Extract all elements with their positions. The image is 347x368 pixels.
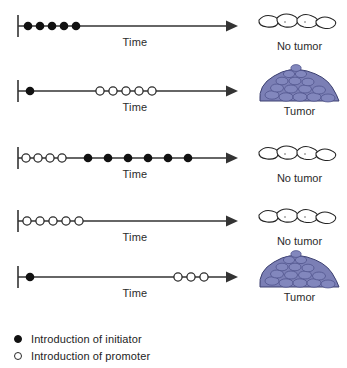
tumor-cell xyxy=(302,264,314,272)
timeline-row: Time xyxy=(0,73,347,139)
tumor-cell xyxy=(276,263,288,271)
timeline-axis-svg xyxy=(0,259,250,309)
normal-cell xyxy=(259,148,279,160)
timeline-axis: Time xyxy=(0,203,250,253)
initiator-marker xyxy=(124,154,133,163)
time-axis-label: Time xyxy=(80,231,190,243)
tumor-cell xyxy=(289,263,301,271)
timeline-axis-svg xyxy=(0,73,250,123)
normal-cell xyxy=(316,212,336,224)
promoter-marker xyxy=(122,87,130,95)
promoter-marker xyxy=(22,154,30,162)
promoter-marker xyxy=(23,217,31,225)
outcome-tumor: Tumor xyxy=(252,255,347,317)
timeline-axis: Time xyxy=(0,259,250,309)
normal-cell xyxy=(277,14,298,27)
normal-cell xyxy=(297,210,318,223)
promoter-marker xyxy=(187,273,195,281)
promoter-marker xyxy=(200,273,208,281)
legend-label: Introduction of initiator xyxy=(31,333,142,345)
promoter-marker xyxy=(96,87,104,95)
promoter-marker xyxy=(36,217,44,225)
tumor-cell xyxy=(291,251,301,258)
tumor-cell xyxy=(313,86,326,94)
time-axis-label: Time xyxy=(80,101,190,113)
tumor-cell xyxy=(279,93,293,101)
tumor-cell xyxy=(276,77,288,85)
time-axis-label: Time xyxy=(80,36,190,48)
promoter-marker xyxy=(58,154,66,162)
timeline-axis-svg xyxy=(0,140,250,190)
tumor-cell xyxy=(271,270,284,278)
tumor-cell xyxy=(313,272,326,280)
axis-arrowhead xyxy=(226,153,238,164)
promoter-marker xyxy=(135,87,143,95)
normal-cell xyxy=(316,17,336,29)
normal-cell xyxy=(259,16,279,28)
tumor-cell xyxy=(293,279,307,287)
tumor-cell xyxy=(293,93,307,101)
initiator-marker xyxy=(72,22,81,31)
initiator-marker xyxy=(104,154,113,163)
timeline-row: Time No tumor xyxy=(0,140,347,206)
normal-cell xyxy=(297,15,318,28)
time-axis-label: Time xyxy=(80,168,190,180)
initiator-marker xyxy=(48,22,57,31)
tumor-cell xyxy=(299,271,312,279)
initiator-marker xyxy=(24,22,33,31)
tumor-cell xyxy=(321,94,335,102)
timeline-axis-svg xyxy=(0,203,250,253)
initiator-marker xyxy=(184,154,193,163)
event-markers xyxy=(24,22,81,31)
normal-cell xyxy=(316,149,336,161)
normal-cells-icon xyxy=(252,136,347,176)
legend: Introduction of initiator Introduction o… xyxy=(0,330,220,368)
carcinogenesis-diagram: Time No tumor xyxy=(0,0,347,368)
filled-circle-icon xyxy=(14,335,22,343)
tumor-cell xyxy=(271,84,284,92)
normal-cell xyxy=(277,146,298,159)
timeline-axis-svg xyxy=(0,8,250,58)
normal-cells-icon xyxy=(252,199,347,239)
promoter-marker xyxy=(34,154,42,162)
tumor-cell xyxy=(285,271,298,279)
normal-cells-icon xyxy=(252,4,347,44)
promoter-marker xyxy=(148,87,156,95)
promoter-marker xyxy=(62,217,70,225)
initiator-marker xyxy=(164,154,173,163)
axis-arrowhead xyxy=(226,21,238,32)
tumor-cell xyxy=(289,77,301,85)
promoter-marker xyxy=(174,273,182,281)
initiator-marker xyxy=(144,154,153,163)
normal-cell xyxy=(259,211,279,223)
promoter-marker xyxy=(46,154,54,162)
outcome-tumor: Tumor xyxy=(252,69,347,131)
legend-item-promoter: Introduction of promoter xyxy=(14,348,150,364)
tumor-cell xyxy=(283,256,294,263)
normal-cell xyxy=(297,147,318,160)
outcome-no-tumor: No tumor xyxy=(252,136,347,198)
outcome-label: No tumor xyxy=(252,40,347,52)
timeline-axis: Time xyxy=(0,8,250,58)
axis-arrowhead xyxy=(226,216,238,227)
initiator-marker xyxy=(36,22,45,31)
promoter-marker xyxy=(109,87,117,95)
axis-arrowhead xyxy=(226,272,238,283)
timeline-axis: Time xyxy=(0,73,250,123)
initiator-marker xyxy=(84,154,93,163)
tumor-cell xyxy=(279,279,293,287)
axis-arrowhead xyxy=(226,86,238,97)
tumor-cell xyxy=(302,78,314,86)
outcome-label: No tumor xyxy=(252,172,347,184)
tumor-cell xyxy=(285,85,298,93)
timeline-row: Time xyxy=(0,259,347,325)
open-circle-icon xyxy=(14,352,22,360)
promoter-marker xyxy=(49,217,57,225)
time-axis-label: Time xyxy=(80,287,190,299)
event-markers xyxy=(22,154,192,163)
initiator-marker xyxy=(60,22,69,31)
initiator-marker xyxy=(26,273,35,282)
tumor-cell xyxy=(283,70,294,77)
promoter-marker xyxy=(75,217,83,225)
outcome-label: Tumor xyxy=(252,105,347,117)
